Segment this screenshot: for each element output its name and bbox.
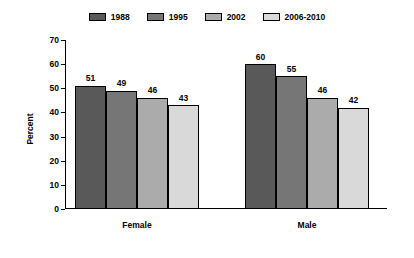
bar[interactable] (75, 86, 106, 209)
y-tick-mark (61, 209, 65, 210)
legend-label: 2006-2010 (285, 13, 326, 22)
bar[interactable] (276, 76, 307, 209)
y-tick-label: 20 (50, 156, 59, 165)
bar-value-label: 55 (276, 65, 307, 74)
y-tick-mark (61, 161, 65, 162)
legend-swatch (263, 13, 280, 21)
bar-value-label: 49 (106, 79, 137, 88)
bar-slot: 51 (75, 40, 106, 209)
bar[interactable] (137, 98, 168, 209)
legend-swatch (205, 13, 222, 21)
bar-slot: 42 (338, 40, 369, 209)
bar-slot: 46 (137, 40, 168, 209)
legend-swatch (89, 13, 106, 21)
x-axis-group-label: Female (75, 220, 199, 230)
bar-chart: 1988199520022006-2010 Percent 0102030405… (0, 0, 414, 258)
y-tick-mark (61, 137, 65, 138)
y-tick-label: 70 (50, 36, 59, 45)
y-tick-label: 40 (50, 108, 59, 117)
bar-value-label: 42 (338, 96, 369, 105)
bar-group: 51494643Female (75, 40, 199, 209)
y-tick-label: 60 (50, 60, 59, 69)
bar-group: 60554642Male (245, 40, 369, 209)
plot-area: 010203040506070 51494643Female60554642Ma… (65, 40, 387, 209)
y-tick-label: 10 (50, 181, 59, 190)
bar-value-label: 46 (137, 86, 168, 95)
legend-item: 2002 (205, 13, 246, 22)
bar-slot: 60 (245, 40, 276, 209)
y-axis-title: Percent (25, 113, 35, 144)
bar[interactable] (338, 108, 369, 209)
y-axis-line (65, 40, 66, 209)
bar[interactable] (168, 105, 199, 209)
y-tick-mark (61, 185, 65, 186)
legend-item: 1988 (89, 13, 130, 22)
y-tick-mark (61, 88, 65, 89)
bar-value-label: 60 (245, 53, 276, 62)
y-tick-label: 50 (50, 84, 59, 93)
bar-value-label: 51 (75, 74, 106, 83)
bar-slot: 55 (276, 40, 307, 209)
y-tick-mark (61, 64, 65, 65)
legend-item: 1995 (147, 13, 188, 22)
chart-legend: 1988199520022006-2010 (0, 13, 414, 22)
bar-slot: 46 (307, 40, 338, 209)
legend-label: 1995 (169, 13, 188, 22)
y-tick-mark (61, 112, 65, 113)
x-axis-group-label: Male (245, 220, 369, 230)
legend-label: 2002 (227, 13, 246, 22)
y-tick-mark (61, 40, 65, 41)
legend-item: 2006-2010 (263, 13, 326, 22)
bar[interactable] (307, 98, 338, 209)
legend-label: 1988 (111, 13, 130, 22)
y-tick-label: 0 (54, 205, 59, 214)
legend-swatch (147, 13, 164, 21)
bar[interactable] (106, 91, 137, 209)
y-tick-label: 30 (50, 132, 59, 141)
bar-value-label: 46 (307, 86, 338, 95)
bar[interactable] (245, 64, 276, 209)
bar-value-label: 43 (168, 94, 199, 103)
bar-slot: 43 (168, 40, 199, 209)
bar-slot: 49 (106, 40, 137, 209)
